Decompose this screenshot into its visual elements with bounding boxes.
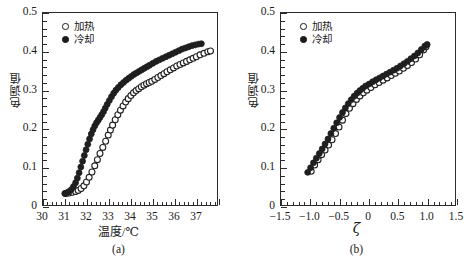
axis-tick	[322, 202, 323, 206]
figure-container: 色调值 3031323334353637 00.10.20.30.40.5 温度…	[0, 0, 475, 265]
open-circle-icon	[300, 23, 307, 30]
y-tick-label: 0.1	[0, 161, 37, 173]
axis-tick	[43, 36, 47, 37]
axis-tick	[281, 52, 287, 53]
axis-tick	[43, 44, 47, 45]
axis-tick	[127, 202, 128, 206]
axis-tick	[439, 202, 440, 206]
axis-tick	[113, 202, 114, 206]
legend-a: 加热 冷却	[62, 20, 94, 46]
axis-tick	[157, 202, 158, 206]
data-point	[198, 41, 204, 47]
axis-tick	[281, 114, 285, 115]
x-tick-label: 36	[168, 211, 180, 223]
axis-tick	[281, 168, 287, 169]
axis-tick	[184, 202, 185, 206]
axis-tick	[281, 67, 285, 68]
axis-tick	[281, 98, 285, 99]
filled-circle-icon	[62, 36, 69, 43]
data-point	[92, 163, 98, 169]
axis-tick	[410, 202, 411, 206]
axis-tick	[109, 199, 110, 205]
y-tick-label: 0.5	[0, 6, 37, 18]
axis-tick	[43, 160, 47, 161]
axis-tick	[43, 106, 47, 107]
series-open-circle	[308, 44, 429, 174]
axis-tick	[299, 202, 300, 206]
y-tick-label: 0.1	[238, 161, 275, 173]
panel-caption-a: (a)	[0, 243, 237, 255]
axis-tick	[175, 199, 176, 205]
axis-tick	[43, 168, 49, 169]
legend-label-cooling: 冷却	[312, 33, 332, 46]
axis-tick	[43, 60, 47, 61]
y-tick-label: 0.2	[238, 123, 275, 135]
legend-item-heating: 加热	[300, 20, 332, 33]
axis-tick	[135, 202, 136, 206]
axis-tick	[43, 21, 47, 22]
data-point	[424, 42, 430, 48]
axis-tick	[43, 199, 47, 200]
axis-tick	[43, 75, 47, 76]
data-point	[103, 138, 109, 144]
axis-tick	[392, 202, 393, 206]
data-point	[331, 125, 337, 131]
axis-tick	[281, 60, 285, 61]
x-tick-label: 32	[80, 211, 92, 223]
axis-tick	[43, 184, 47, 185]
axis-tick	[179, 202, 180, 206]
axis-tick	[201, 202, 202, 206]
axis-tick	[140, 202, 141, 206]
axis-tick	[43, 191, 47, 192]
legend-item-cooling: 冷却	[300, 33, 332, 46]
axis-tick	[105, 202, 106, 206]
axis-tick	[340, 199, 341, 205]
data-point	[334, 120, 340, 126]
y-tick-label: 0	[238, 200, 275, 212]
axis-tick	[281, 29, 285, 30]
axis-tick	[149, 202, 150, 206]
axis-tick	[281, 106, 285, 107]
legend-item-heating: 加热	[62, 20, 94, 33]
data-point	[78, 164, 84, 170]
y-tick-label: 0.3	[238, 84, 275, 96]
axis-tick	[43, 129, 49, 130]
axis-tick	[398, 199, 399, 205]
axis-tick	[43, 153, 47, 154]
axis-tick	[281, 207, 287, 208]
legend-label-heating: 加热	[312, 20, 332, 33]
axis-tick	[144, 202, 145, 206]
axis-tick	[281, 44, 285, 45]
x-tick-label: 31	[58, 211, 70, 223]
axis-tick	[281, 21, 285, 22]
axis-tick	[43, 83, 47, 84]
axis-tick	[118, 202, 119, 206]
axis-tick	[166, 202, 167, 206]
x-tick-label: 34	[124, 211, 136, 223]
y-tick-label: 0	[0, 200, 37, 212]
y-tick-label: 0.2	[0, 123, 37, 135]
axis-tick	[375, 202, 376, 206]
axis-tick	[43, 122, 47, 123]
axis-tick	[87, 199, 88, 205]
axis-tick	[369, 199, 370, 205]
axis-tick	[43, 91, 49, 92]
axis-tick	[281, 13, 287, 14]
axis-tick	[328, 202, 329, 206]
axis-tick	[162, 202, 163, 206]
axis-tick	[56, 202, 57, 206]
axis-tick	[281, 75, 285, 76]
data-point	[208, 48, 214, 54]
axis-tick	[363, 202, 364, 206]
axis-tick	[206, 202, 207, 206]
y-tick-label: 0.3	[0, 84, 37, 96]
axis-tick	[43, 13, 49, 14]
axis-tick	[416, 202, 417, 206]
axis-tick	[287, 202, 288, 206]
axis-tick	[357, 202, 358, 206]
axis-tick	[316, 202, 317, 206]
filled-circle-icon	[300, 36, 307, 43]
data-point	[76, 170, 82, 176]
axis-tick	[43, 29, 47, 30]
data-point	[94, 157, 100, 163]
